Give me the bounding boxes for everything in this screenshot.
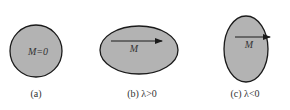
panel-a-inner-label: M=0 <box>28 46 48 57</box>
panel-b-caption: (b) λ>0 <box>127 88 157 99</box>
panel-b-inner-label: M <box>130 43 138 54</box>
panel-b-ellipse <box>100 26 178 74</box>
panel-a-caption: (a) <box>30 88 41 99</box>
panel-c-caption: (c) λ<0 <box>230 88 259 99</box>
panel-c-inner-label: M <box>245 39 253 50</box>
